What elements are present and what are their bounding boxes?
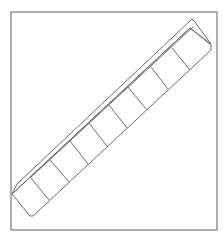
compartment-divider bbox=[70, 141, 88, 164]
compartment-divider bbox=[172, 48, 190, 70]
compartment-divider bbox=[128, 87, 147, 110]
compartment-divider bbox=[31, 178, 49, 200]
strip-inner-edge bbox=[30, 27, 193, 178]
strip-front-face bbox=[12, 28, 211, 216]
diagram-figure bbox=[0, 0, 224, 235]
compartment-divider bbox=[151, 67, 168, 89]
compartment-divider bbox=[89, 123, 107, 146]
compartment-strip bbox=[12, 19, 211, 216]
frame-border bbox=[11, 12, 217, 230]
compartment-divider bbox=[50, 160, 69, 182]
strip-top-face bbox=[12, 19, 211, 194]
compartment-divider bbox=[109, 105, 127, 128]
